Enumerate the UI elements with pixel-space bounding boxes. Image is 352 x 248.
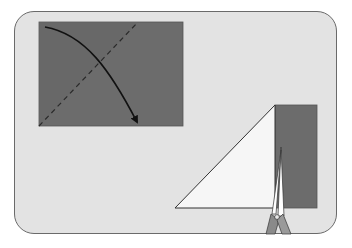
folded-triangle <box>175 105 275 208</box>
diagram-artwork <box>0 0 352 248</box>
step2-folded <box>175 105 317 208</box>
step1-sheet <box>39 22 183 126</box>
